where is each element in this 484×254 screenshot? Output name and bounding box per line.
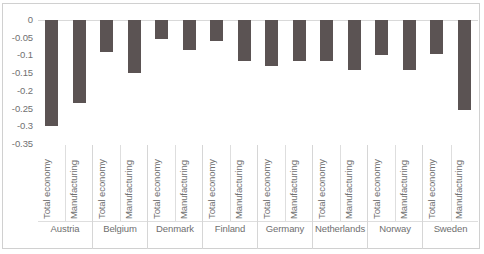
category-divider-line	[423, 221, 478, 222]
category-group: Total economyManufacturingFinland	[203, 145, 258, 249]
bar	[403, 20, 416, 70]
category-divider-line	[258, 221, 312, 222]
bar-series-container	[38, 20, 478, 144]
bar	[320, 20, 333, 61]
y-axis-tick-label: -0.2	[17, 86, 33, 96]
category-axis: Total economyManufacturingAustriaTotal e…	[38, 145, 478, 249]
subcategory-cell: Manufacturing	[285, 145, 312, 221]
subcategory-cell: Total economy	[258, 145, 285, 221]
bar	[293, 20, 306, 61]
bar-chart: 0-0.05-0.1-0.15-0.2-0.25-0.3-0.35 Total …	[0, 0, 484, 254]
subcategory-cell: Total economy	[93, 145, 120, 221]
bar	[128, 20, 141, 73]
y-axis-tick-label: 0	[28, 15, 33, 25]
category-group: Total economyManufacturingBelgium	[93, 145, 148, 249]
category-label: Denmark	[148, 223, 202, 234]
subcategory-cell: Total economy	[38, 145, 65, 221]
category-group: Total economyManufacturingNorway	[368, 145, 423, 249]
subcategory-label: Total economy	[317, 159, 327, 219]
category-label: Netherlands	[313, 223, 367, 234]
subcategory-cell: Total economy	[148, 145, 175, 221]
subcategory-cell: Total economy	[423, 145, 451, 221]
subcategory-label: Manufacturing	[124, 160, 134, 219]
subcategory-label: Total economy	[372, 159, 382, 219]
subcategory-cell: Total economy	[368, 145, 395, 221]
subcategory-cell: Manufacturing	[65, 145, 92, 221]
category-divider-line	[368, 221, 422, 222]
category-label: Austria	[38, 223, 92, 234]
bar	[100, 20, 113, 52]
subcategory-label: Total economy	[207, 159, 217, 219]
subcategory-label: Manufacturing	[454, 160, 464, 219]
y-axis-tick-label: -0.1	[17, 50, 33, 60]
category-group: Total economyManufacturingAustria	[38, 145, 93, 249]
category-label: Germany	[258, 223, 312, 234]
subcategory-cell: Total economy	[203, 145, 230, 221]
bar	[458, 20, 471, 110]
subcategory-label: Total economy	[262, 159, 272, 219]
category-divider-line	[148, 221, 202, 222]
bar	[183, 20, 196, 50]
subcategory-label: Total economy	[152, 159, 162, 219]
bar	[430, 20, 443, 54]
plot-area	[38, 20, 478, 144]
category-divider-line	[93, 221, 147, 222]
subcategory-label: Total economy	[42, 159, 52, 219]
category-label: Norway	[368, 223, 422, 234]
category-divider-line	[38, 221, 92, 222]
bar	[265, 20, 278, 66]
subcategory-cell: Total economy	[313, 145, 340, 221]
subcategory-label: Manufacturing	[344, 160, 354, 219]
bar	[210, 20, 223, 41]
y-axis-tick-label: -0.35	[12, 139, 33, 149]
category-group: Total economyManufacturingGermany	[258, 145, 313, 249]
subcategory-cell: Manufacturing	[230, 145, 257, 221]
category-divider-line	[313, 221, 367, 222]
category-group: Total economyManufacturingSweden	[423, 145, 478, 249]
y-axis-tick-label: -0.05	[12, 33, 33, 43]
subcategory-label: Manufacturing	[399, 160, 409, 219]
category-group: Total economyManufacturingNetherlands	[313, 145, 368, 249]
category-group: Total economyManufacturingDenmark	[148, 145, 203, 249]
subcategory-label: Manufacturing	[289, 160, 299, 219]
subcategory-cell: Manufacturing	[120, 145, 147, 221]
bar	[348, 20, 361, 70]
subcategory-cell: Manufacturing	[451, 145, 479, 221]
subcategory-label: Total economy	[97, 159, 107, 219]
bar	[375, 20, 388, 55]
subcategory-label: Total economy	[427, 159, 437, 219]
subcategory-label: Manufacturing	[234, 160, 244, 219]
category-label: Finland	[203, 223, 257, 234]
y-axis-tick-label: -0.25	[12, 104, 33, 114]
subcategory-label: Manufacturing	[179, 160, 189, 219]
category-label: Sweden	[423, 223, 478, 234]
y-axis-tick-label: -0.3	[17, 121, 33, 131]
category-divider-line	[203, 221, 257, 222]
subcategory-cell: Manufacturing	[175, 145, 202, 221]
bar	[45, 20, 58, 126]
bar	[73, 20, 86, 103]
bar	[155, 20, 168, 39]
subcategory-label: Manufacturing	[69, 160, 79, 219]
y-axis-tick-label: -0.15	[12, 68, 33, 78]
category-label: Belgium	[93, 223, 147, 234]
subcategory-cell: Manufacturing	[340, 145, 367, 221]
subcategory-cell: Manufacturing	[395, 145, 422, 221]
y-axis: 0-0.05-0.1-0.15-0.2-0.25-0.3-0.35	[0, 0, 36, 254]
bar	[238, 20, 251, 61]
